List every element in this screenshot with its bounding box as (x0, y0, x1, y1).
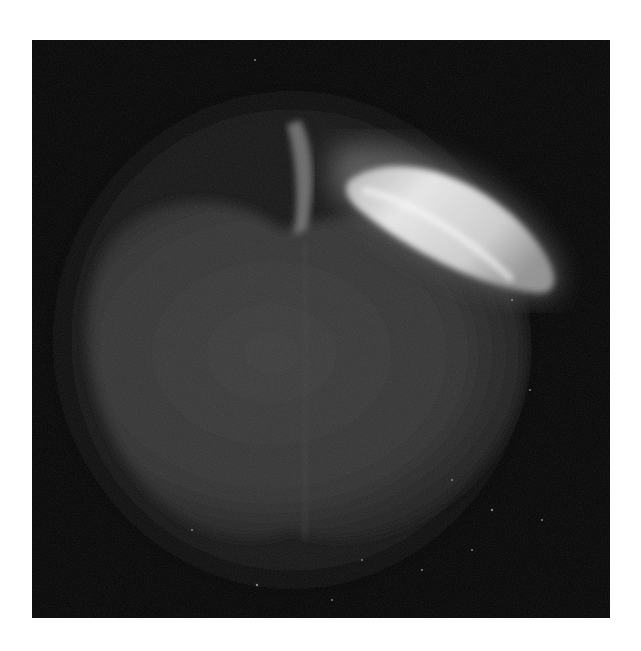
apple-illustration (32, 40, 610, 618)
apple-photo (32, 40, 610, 618)
